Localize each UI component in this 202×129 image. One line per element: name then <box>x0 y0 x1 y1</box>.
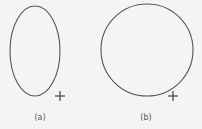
ellipse-shape-a <box>10 6 60 96</box>
plus-marker-a-icon <box>55 91 65 101</box>
circle-shape-b <box>101 4 193 96</box>
plus-marker-b-icon <box>168 91 178 101</box>
panel-label-a: (a) <box>34 113 45 122</box>
figure-canvas <box>0 0 202 129</box>
panel-label-b: (b) <box>140 113 151 122</box>
